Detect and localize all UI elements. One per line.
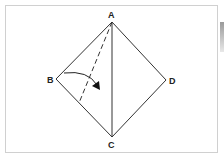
label-d: D xyxy=(169,76,176,86)
label-a: A xyxy=(108,10,115,20)
square-outline xyxy=(56,22,166,137)
fold-line xyxy=(79,22,112,103)
label-b: B xyxy=(47,75,54,85)
fold-arrowhead-icon xyxy=(92,81,100,90)
fold-arrow-curve xyxy=(64,73,97,86)
label-c: C xyxy=(108,140,115,150)
fold-diagram: A B C D xyxy=(0,0,224,158)
